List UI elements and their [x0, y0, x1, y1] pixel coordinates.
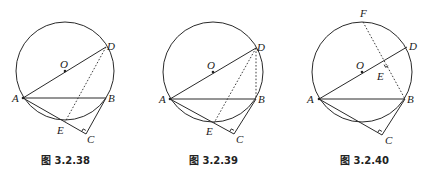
right-angle-mark-c — [378, 130, 382, 133]
label-f: F — [359, 7, 367, 19]
caption-3-2-38: 图 3.2.38 — [41, 155, 90, 166]
point-a — [169, 98, 172, 101]
segment-ac — [23, 98, 86, 134]
label-d: D — [408, 40, 417, 52]
figure-3-2-39: O A B D E C 图 3.2.39 — [158, 22, 265, 166]
label-d: D — [106, 40, 115, 52]
caption-3-2-40: 图 3.2.40 — [340, 155, 389, 166]
label-e: E — [205, 125, 213, 137]
label-e: E — [56, 124, 64, 136]
label-b: B — [258, 93, 265, 105]
label-d: D — [256, 41, 265, 53]
caption-3-2-39: 图 3.2.39 — [189, 155, 238, 166]
segment-ad — [170, 48, 256, 99]
segment-ac — [319, 99, 382, 135]
point-o — [361, 71, 364, 74]
label-o: O — [60, 58, 68, 70]
label-c: C — [236, 133, 244, 145]
segment-bc — [234, 99, 256, 134]
point-a — [318, 98, 321, 101]
segment-de — [214, 48, 256, 123]
label-o: O — [207, 59, 215, 71]
label-e: E — [376, 70, 384, 82]
label-a: A — [11, 92, 19, 104]
segment-bc — [86, 98, 106, 134]
segment-ac — [170, 99, 234, 134]
figure-3-2-38: O A B D E C 图 3.2.38 — [11, 22, 115, 166]
label-b: B — [108, 92, 115, 104]
segment-bc — [382, 99, 405, 135]
right-angle-mark-c — [82, 129, 86, 132]
label-o: O — [356, 59, 364, 71]
label-c: C — [385, 134, 393, 146]
geometry-figures: O A B D E C 图 3.2.38 O A B D E C 图 3.2.3… — [0, 0, 425, 184]
label-a: A — [306, 93, 314, 105]
right-angle-mark-c — [230, 129, 234, 132]
point-o — [64, 70, 67, 73]
figure-3-2-40: O A B D F E C 图 3.2.40 — [306, 7, 417, 166]
label-c: C — [87, 133, 95, 145]
label-b: B — [407, 93, 414, 105]
segment-ad — [23, 47, 106, 98]
label-a: A — [158, 93, 166, 105]
point-o — [212, 71, 215, 74]
segment-ad — [319, 47, 407, 99]
segment-de — [65, 47, 106, 122]
point-a — [22, 97, 25, 100]
